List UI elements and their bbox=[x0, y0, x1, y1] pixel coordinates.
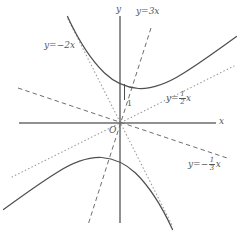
equals-sign: = bbox=[49, 40, 57, 50]
unit-tick-label: 1 bbox=[127, 100, 132, 108]
hyperbola-figure: y x O 1 y=3x y=−2x y=12x y=−13x bbox=[0, 0, 251, 238]
plot-canvas bbox=[0, 0, 251, 238]
label-line-half-x: y=12x bbox=[166, 91, 191, 107]
fraction-one-third: 13 bbox=[209, 157, 215, 173]
equals-sign: = bbox=[141, 6, 149, 16]
x-axis-label: x bbox=[219, 117, 224, 126]
fraction-one-half: 12 bbox=[179, 91, 185, 107]
label-line-3x: y=3x bbox=[136, 7, 159, 16]
equals-sign: = bbox=[193, 159, 201, 169]
equals-sign: = bbox=[171, 93, 179, 103]
label-line-neg-third-x: y=−13x bbox=[188, 157, 221, 173]
label-line-neg2x: y=−2x bbox=[44, 41, 75, 50]
y-axis-label: y bbox=[116, 5, 121, 14]
origin-label: O bbox=[109, 126, 116, 135]
minus-sign: − bbox=[201, 159, 209, 169]
